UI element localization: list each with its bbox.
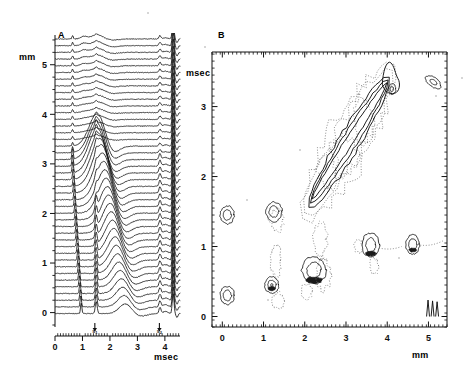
panel-b-x-axis-label: mm [412, 350, 429, 360]
svg-text:3: 3 [42, 159, 47, 169]
svg-text:3: 3 [201, 102, 206, 112]
svg-text:5: 5 [42, 60, 47, 70]
svg-text:0: 0 [201, 312, 206, 322]
scan-speck [435, 95, 436, 96]
page-background [0, 0, 472, 366]
svg-text:3: 3 [135, 342, 140, 352]
svg-text:1: 1 [261, 333, 266, 343]
panel-a-label: A [58, 30, 65, 40]
svg-text:2: 2 [302, 333, 307, 343]
panel-a-y-axis-label: mm [19, 52, 36, 62]
svg-text:0: 0 [220, 333, 225, 343]
scan-speck [398, 257, 399, 258]
contour-core-fill [268, 286, 276, 290]
panel-b-y-axis-label: msec [186, 68, 210, 78]
scan-speck [246, 199, 247, 200]
svg-text:0: 0 [42, 308, 47, 318]
svg-text:1: 1 [42, 258, 47, 268]
panel-b-label: B [218, 30, 225, 40]
scan-speck [147, 12, 148, 13]
svg-text:2: 2 [107, 342, 112, 352]
svg-text:5: 5 [426, 333, 431, 343]
svg-text:1: 1 [201, 242, 206, 252]
svg-text:2: 2 [201, 172, 206, 182]
figure-root: 012345 01234 s1s2 0123 012345 [0, 0, 472, 366]
scan-speck [299, 149, 300, 150]
svg-text:0: 0 [52, 342, 57, 352]
svg-text:4: 4 [385, 333, 390, 343]
svg-text:3: 3 [343, 333, 348, 343]
scan-speck [461, 77, 462, 78]
scan-speck [267, 299, 268, 300]
scan-speck [204, 46, 205, 47]
svg-text:1: 1 [80, 342, 85, 352]
panel-a-x-axis-label: msec [154, 352, 178, 362]
svg-text:4: 4 [162, 342, 167, 352]
svg-text:4: 4 [42, 110, 47, 120]
svg-text:2: 2 [42, 209, 47, 219]
